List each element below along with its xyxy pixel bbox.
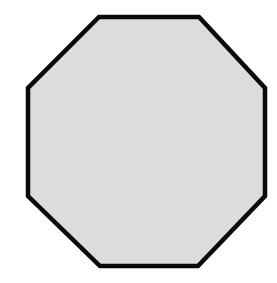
image-canvas [0, 0, 277, 283]
octagon-shape [28, 17, 265, 266]
octagon-figure [0, 0, 277, 283]
